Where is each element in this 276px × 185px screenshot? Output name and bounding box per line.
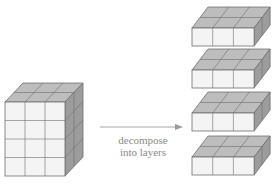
front-face [192,113,254,131]
source-block [5,83,83,176]
front-face [192,157,254,175]
decompose-arrow [100,124,183,130]
stacked-block [5,83,83,176]
layer-4 [192,136,270,175]
arrow-head [175,124,183,130]
front-face [192,28,254,46]
arrow-caption: decompose into layers [100,134,186,158]
arrow-caption-line1: decompose [100,134,186,146]
layer-1 [192,7,270,46]
layer-2 [192,49,270,88]
layer-3 [192,92,270,131]
layer-stack [192,7,270,175]
arrow-caption-line2: into layers [100,146,186,158]
front-face [192,70,254,88]
